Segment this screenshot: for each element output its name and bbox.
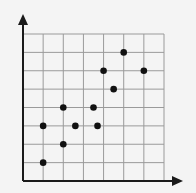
data-point xyxy=(72,123,79,130)
data-point xyxy=(141,67,148,74)
data-point xyxy=(94,123,101,130)
data-point xyxy=(120,49,127,56)
data-point xyxy=(110,86,117,93)
y-axis-arrow-icon xyxy=(18,14,28,25)
data-point xyxy=(100,67,107,74)
x-axis-arrow-icon xyxy=(172,176,183,186)
data-point xyxy=(90,104,97,111)
data-point xyxy=(60,141,67,148)
data-point xyxy=(60,104,67,111)
data-point xyxy=(40,123,47,130)
scatter-chart xyxy=(0,0,196,193)
data-point xyxy=(40,159,47,166)
